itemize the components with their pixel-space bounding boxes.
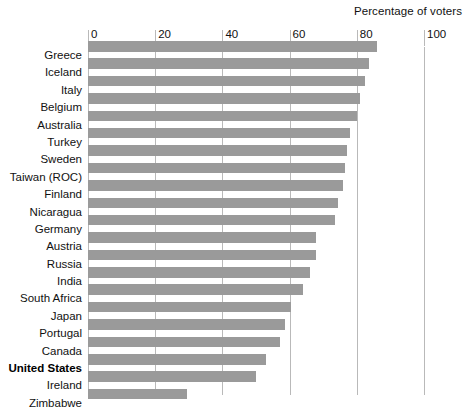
bar-nicaragua	[88, 198, 338, 209]
category-label-australia: Australia	[0, 117, 82, 134]
bar-south-africa	[88, 284, 303, 295]
x-tick-label-60: 60	[293, 28, 306, 40]
category-label-finland: Finland	[0, 186, 82, 203]
bar-portugal	[88, 319, 285, 330]
x-tick-label-80: 80	[360, 28, 373, 40]
category-label-greece: Greece	[0, 47, 82, 64]
category-label-portugal: Portugal	[0, 325, 82, 342]
category-label-russia: Russia	[0, 256, 82, 273]
bar-austria	[88, 232, 316, 243]
category-label-ireland: Ireland	[0, 377, 82, 394]
category-label-germany: Germany	[0, 221, 82, 238]
category-label-turkey: Turkey	[0, 134, 82, 151]
category-label-italy: Italy	[0, 82, 82, 99]
x-tick-label-20: 20	[158, 28, 171, 40]
category-label-south-africa: South Africa	[0, 290, 82, 307]
tick-mark-100	[424, 30, 425, 46]
bar-australia	[88, 111, 357, 122]
bar-rows: GreeceIcelandItalyBelgiumAustraliaTurkey…	[0, 47, 470, 395]
bar-row: Ireland	[0, 377, 470, 394]
bar-united-states	[88, 354, 266, 365]
bar-turkey	[88, 128, 350, 139]
x-tick-label-40: 40	[225, 28, 238, 40]
category-label-zimbabwe: Zimbabwe	[0, 395, 82, 411]
bar-taiwan-roc	[88, 163, 345, 174]
category-label-austria: Austria	[0, 238, 82, 255]
bar-canada	[88, 337, 280, 348]
category-label-united-states: United States	[0, 360, 82, 377]
bar-sweden	[88, 145, 347, 156]
category-label-india: India	[0, 273, 82, 290]
x-tick-label-0: 0	[91, 28, 97, 40]
bar-finland	[88, 180, 343, 191]
bar-india	[88, 267, 310, 278]
category-label-canada: Canada	[0, 343, 82, 360]
category-label-iceland: Iceland	[0, 64, 82, 81]
category-label-taiwan-roc: Taiwan (ROC)	[0, 169, 82, 186]
bar-belgium	[88, 93, 360, 104]
bar-row: Zimbabwe	[0, 395, 470, 411]
axis-title: Percentage of voters	[354, 5, 462, 17]
category-label-sweden: Sweden	[0, 151, 82, 168]
bar-zimbabwe	[88, 389, 187, 400]
bar-japan	[88, 302, 291, 313]
bar-ireland	[88, 371, 256, 382]
bar-germany	[88, 215, 335, 226]
bar-iceland	[88, 58, 369, 69]
bar-russia	[88, 250, 316, 261]
category-label-nicaragua: Nicaragua	[0, 204, 82, 221]
category-label-belgium: Belgium	[0, 99, 82, 116]
x-tick-label-100: 100	[427, 28, 446, 40]
category-label-japan: Japan	[0, 308, 82, 325]
bar-italy	[88, 76, 365, 87]
bar-greece	[88, 41, 377, 52]
